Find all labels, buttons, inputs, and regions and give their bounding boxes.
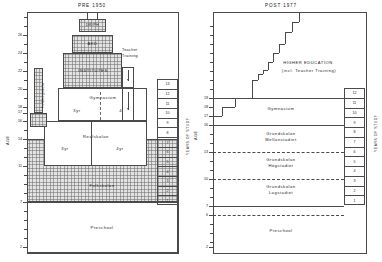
left-tick — [23, 71, 27, 72]
block-institutes-label: INSTITUTES — [66, 68, 120, 74]
block-preschool-label: Preschool — [236, 228, 326, 234]
years-cell: 11 — [158, 99, 177, 109]
teacher-training-label-line2: Training — [122, 54, 156, 60]
left-tick — [24, 62, 27, 63]
left-tick — [23, 35, 27, 36]
years-cell: 2 — [158, 187, 177, 197]
right-tick — [210, 80, 213, 81]
higher-ed-step — [279, 44, 285, 53]
left-frame-bottom — [27, 253, 178, 254]
right-tick-label: 7 — [196, 204, 208, 208]
block-folkskolan-label: Folkskolan — [52, 183, 152, 189]
left-tick-label: 26 — [10, 33, 22, 37]
drph-connector-right — [97, 12, 98, 19]
right-tick — [210, 71, 213, 72]
teacher-training-label-line1: Teacher — [122, 48, 156, 54]
left-tick — [24, 130, 27, 131]
right-tick-label: 16 — [196, 123, 208, 127]
left-tick-label: 7 — [10, 200, 22, 204]
right-tick-label: 2 — [196, 245, 208, 249]
left-tick-label: 17 — [10, 110, 22, 114]
years-cell: 2 — [345, 187, 364, 197]
right-tick — [210, 89, 213, 90]
right-tick — [210, 35, 213, 36]
years-cell: 4 — [158, 167, 177, 177]
grundskolan-lagstadiet-line2: Lågstadiet — [236, 190, 326, 196]
realskolan-track-4yr: 4yr — [105, 146, 135, 152]
higher-ed-step — [235, 98, 252, 107]
gymnasium-track-3yr: 3yr — [64, 108, 90, 114]
block-realskolan-label: Realskolan — [60, 134, 132, 140]
block-folkhogskola-label: Folkhogskola — [41, 83, 45, 108]
left-tick-label: 2 — [10, 245, 22, 249]
right-tick — [210, 134, 213, 135]
left-tick — [24, 26, 27, 27]
higher-education-line2: (incl. Teacher Training) — [261, 68, 357, 74]
left-tick — [23, 107, 27, 108]
lagstadiet-top-dashed — [213, 179, 344, 180]
years-cell: 12 — [158, 90, 177, 100]
block-folkhogskola-base — [30, 113, 47, 127]
years-cell: 1 — [158, 196, 177, 206]
block-preschool-label: Preschool — [52, 225, 152, 231]
preschool-dashed-divider — [213, 215, 344, 216]
years-cell: 7 — [158, 138, 177, 148]
years-cell: 4 — [345, 167, 364, 177]
years-cell: 9 — [345, 118, 364, 128]
right-tick — [210, 197, 213, 198]
left-years-axis-label: YEARS OF STUDY — [186, 117, 190, 155]
left-tick-label: 24 — [10, 51, 22, 55]
right-tick — [209, 247, 213, 248]
drph-connector-left — [87, 12, 88, 19]
right-frame-bottom — [213, 253, 366, 254]
left-tick — [24, 17, 27, 18]
left-tick — [23, 89, 27, 90]
years-cell: 3 — [158, 177, 177, 187]
years-cell: 10 — [158, 109, 177, 119]
realskolan-track-3yr: 3yr — [50, 146, 80, 152]
right-frame-top — [213, 12, 366, 13]
panel-post-1977: POST 1977 AGE 19 18 17 16 13 10 — [191, 0, 382, 262]
left-frame-top — [27, 12, 178, 13]
years-cell: 1 — [345, 196, 364, 206]
block-realskolan — [44, 121, 147, 166]
years-cell: 11 — [345, 99, 364, 109]
higher-ed-step — [285, 32, 292, 44]
years-cell: 9 — [158, 119, 177, 129]
panel-left-title: PRE 1950 — [52, 3, 132, 8]
left-tick-label: 16 — [10, 119, 22, 123]
right-tick — [210, 44, 213, 45]
teacher-training-arrow-upper — [128, 70, 129, 81]
higher-ed-step — [292, 22, 299, 32]
right-age-axis-label: AGE — [194, 130, 198, 140]
panel-right-title: POST 1977 — [241, 3, 321, 8]
higher-education-line1: HIGHER EDUCATION — [263, 60, 353, 66]
higher-ed-step — [299, 12, 305, 22]
years-cell: 10 — [345, 109, 364, 119]
right-tick — [210, 161, 213, 162]
gymnasium-top-edge — [213, 98, 344, 99]
higher-ed-step — [222, 107, 235, 116]
grundskolan-mellanstadiet-line2: Mellanstadiet — [236, 137, 326, 143]
left-tick — [24, 80, 27, 81]
mellanstadiet-top-edge — [213, 125, 344, 126]
right-tick-label: 17 — [196, 114, 208, 118]
right-tick — [210, 170, 213, 171]
left-tick — [24, 44, 27, 45]
preschool-top-edge — [213, 206, 344, 207]
years-cell: 5 — [345, 157, 364, 167]
right-tick — [210, 26, 213, 27]
left-tick-label: 14 — [10, 137, 22, 141]
left-tick — [23, 53, 27, 54]
right-years-of-study-column: 12 11 10 9 8 7 6 5 4 3 2 1 — [344, 88, 365, 205]
hogstadiet-top-dashed — [213, 152, 344, 153]
years-cell: 8 — [158, 129, 177, 139]
figure-canvas: PRE 1950 AGE 26 24 22 20 18 17 16 14 — [0, 0, 382, 262]
right-tick — [209, 107, 213, 108]
higher-ed-step — [213, 116, 222, 125]
years-cell: 13 — [158, 80, 177, 90]
right-years-axis-label: YEARS OF STUDY — [374, 114, 378, 152]
right-axis-line — [213, 12, 214, 254]
higher-ed-step — [258, 74, 263, 80]
right-tick-label: 13 — [196, 150, 208, 154]
